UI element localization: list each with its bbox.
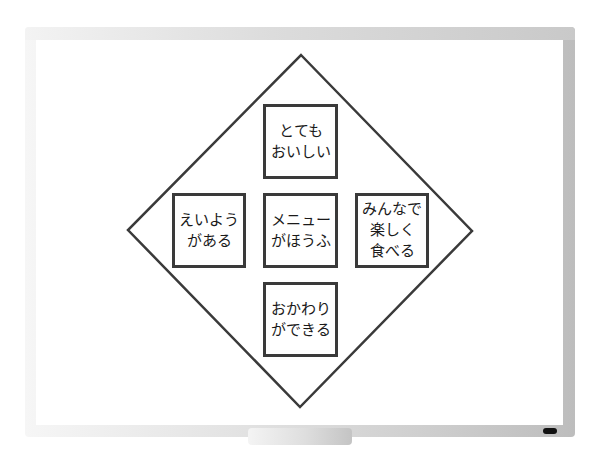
box-center: メニュー がほうふ [263,193,338,268]
box-left-line-1: えいよう [179,210,239,231]
box-left-line-2: がある [187,231,232,252]
box-center-line-1: メニュー [271,210,331,231]
box-top-line-1: とても [279,121,323,142]
box-bottom-line-2: ができる [271,320,331,341]
box-bottom-line-1: おかわり [271,299,331,320]
box-center-line-2: がほうふ [271,231,331,252]
eraser-tray [248,428,352,445]
box-bottom: おかわり ができる [263,282,338,357]
marker-icon [543,428,557,434]
box-right-line-3: 食べる [370,241,415,262]
box-top: とても おいしい [263,104,338,179]
box-left: えいよう がある [172,193,246,268]
box-top-line-2: おいしい [271,142,331,163]
box-right-line-2: 楽しく [370,220,415,241]
box-right: みんなで 楽しく 食べる [355,193,429,268]
box-right-line-1: みんなで [362,199,422,220]
